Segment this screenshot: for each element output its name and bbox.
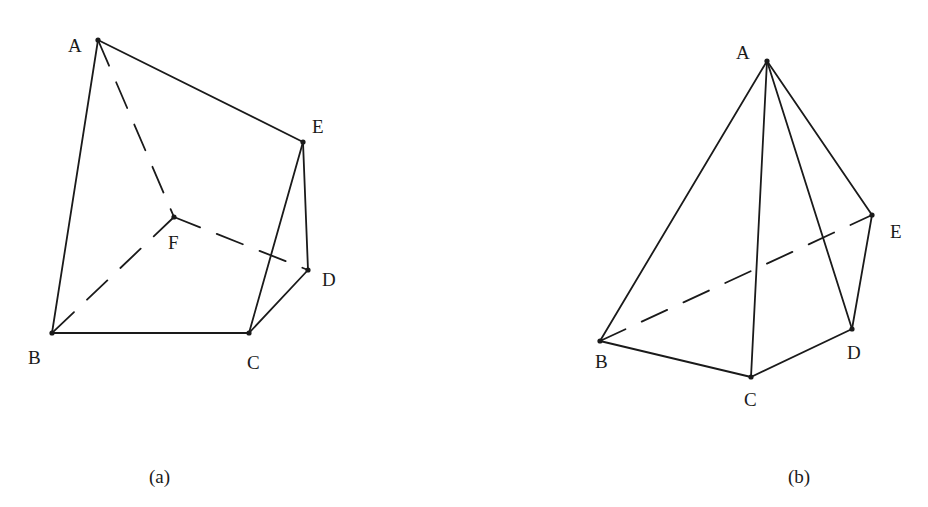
caption-b: (b) (788, 467, 810, 486)
edge-AB (52, 40, 98, 333)
edge-AE (98, 40, 303, 142)
vertex-point-E (300, 139, 305, 144)
vertex-label-b-D: D (847, 343, 861, 362)
vertex-label-a-A: A (68, 36, 82, 55)
edge-AC (751, 61, 767, 377)
edge-AB (600, 61, 767, 341)
vertex-label-a-D: D (322, 270, 336, 289)
edge-DE (852, 215, 872, 329)
edge-DE (303, 142, 308, 270)
vertex-point-F (171, 214, 176, 219)
vertex-label-a-F: F (168, 233, 179, 252)
vertex-point-B (49, 330, 54, 335)
figure-a (49, 37, 310, 335)
vertex-point-D (305, 267, 310, 272)
hidden-edge-FB (52, 217, 174, 333)
vertex-point-B (597, 338, 602, 343)
caption-a: (a) (149, 467, 170, 486)
polyhedra-diagram (0, 0, 928, 507)
edge-CD (751, 329, 852, 377)
vertex-point-C (246, 330, 251, 335)
vertex-label-b-C: C (744, 390, 757, 409)
hidden-edge-FD (174, 217, 308, 270)
vertex-point-D (849, 326, 854, 331)
vertex-label-a-E: E (312, 117, 324, 136)
hidden-edge-AF (98, 40, 174, 217)
vertex-label-a-C: C (247, 353, 260, 372)
vertex-label-b-B: B (595, 352, 608, 371)
vertex-point-C (748, 374, 753, 379)
edge-AD (767, 61, 852, 329)
vertex-label-b-E: E (890, 222, 902, 241)
vertex-point-A (764, 58, 769, 63)
vertex-point-A (95, 37, 100, 42)
vertex-point-E (869, 212, 874, 217)
hidden-edge-BE (600, 215, 872, 341)
edge-BC (600, 341, 751, 377)
edge-AE (767, 61, 872, 215)
figure-b (597, 58, 874, 379)
vertex-label-b-A: A (736, 43, 750, 62)
vertex-label-a-B: B (28, 348, 41, 367)
